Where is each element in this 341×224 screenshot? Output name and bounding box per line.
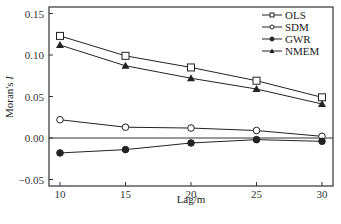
y-tick-label: 0.05 — [25, 91, 45, 103]
circle-marker-icon — [57, 116, 64, 123]
circle-marker-icon — [253, 127, 260, 134]
y-tick-label: 0.00 — [25, 132, 45, 144]
dot-marker-icon — [188, 140, 195, 147]
dot-marker-icon — [122, 146, 129, 153]
legend-item-gwr: GWR — [262, 33, 311, 45]
y-axis: 0.150.100.050.00−0.05 — [19, 8, 53, 186]
legend-label: SDM — [285, 21, 309, 33]
y-tick-label: 0.10 — [25, 49, 45, 61]
x-tick-label: 30 — [317, 188, 329, 200]
legend-item-sdm: SDM — [262, 21, 309, 33]
x-axis-label: Lag/m — [177, 193, 206, 205]
y-tick-label: 0.15 — [25, 8, 45, 20]
morans-i-line-chart: 0.150.100.050.00−0.05 1015202530 OLSSDMG… — [0, 0, 341, 224]
square-marker-icon — [122, 52, 129, 59]
dot-marker-icon — [270, 37, 274, 41]
circle-marker-icon — [270, 25, 274, 29]
legend: OLSSDMGWRNMEM — [262, 9, 319, 57]
legend-item-nmem: NMEM — [262, 45, 319, 57]
x-tick-label: 25 — [251, 188, 263, 200]
series-gwr — [57, 136, 326, 156]
dot-marker-icon — [57, 150, 64, 157]
square-marker-icon — [319, 94, 326, 101]
legend-label: GWR — [285, 33, 311, 45]
x-tick-label: 15 — [120, 188, 132, 200]
series-sdm — [57, 116, 326, 139]
y-tick-label: −0.05 — [19, 174, 45, 186]
legend-label: NMEM — [285, 45, 319, 57]
dot-marker-icon — [319, 138, 326, 145]
circle-marker-icon — [122, 124, 129, 131]
triangle-marker-icon — [56, 41, 64, 48]
y-axis-label: Moran's I — [3, 75, 15, 118]
circle-marker-icon — [188, 125, 195, 132]
square-marker-icon — [57, 32, 64, 39]
x-tick-label: 10 — [55, 188, 67, 200]
dot-marker-icon — [253, 136, 260, 143]
square-marker-icon — [270, 13, 274, 17]
legend-label: OLS — [285, 9, 306, 21]
square-marker-icon — [253, 77, 260, 84]
legend-item-ols: OLS — [262, 9, 306, 21]
square-marker-icon — [188, 64, 195, 71]
